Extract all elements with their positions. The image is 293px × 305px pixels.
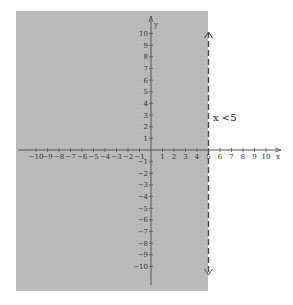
y-tick-label: −6: [138, 216, 149, 224]
y-tick-label: 5: [144, 88, 148, 96]
shaded-region: [16, 11, 208, 291]
x-tick-label: 7: [229, 153, 233, 161]
y-tick-label: 3: [144, 112, 148, 120]
y-tick-label: 7: [144, 65, 148, 73]
x-tick-label: −7: [65, 153, 75, 161]
y-tick-label: −4: [138, 193, 149, 201]
inequality-label: x <5: [213, 112, 237, 123]
x-tick-label: 4: [195, 153, 200, 161]
x-tick-label: −6: [77, 153, 88, 161]
x-tick-label: 1: [160, 153, 164, 161]
x-tick-label: −9: [42, 153, 52, 161]
y-tick-label: −10: [133, 263, 148, 271]
y-tick-label: 9: [144, 42, 148, 50]
x-tick-label: 2: [172, 153, 176, 161]
y-tick-label: −3: [138, 181, 148, 189]
y-axis-label: y: [153, 21, 158, 29]
y-tick-label: 8: [144, 53, 148, 61]
y-tick-label: −8: [138, 240, 148, 248]
x-tick-label: −4: [100, 153, 111, 161]
y-tick-label: −7: [138, 228, 148, 236]
x-axis-label: x: [276, 153, 280, 161]
y-tick-label: 10: [139, 30, 148, 38]
x-tick-label: −10: [29, 153, 44, 161]
y-tick-label: −5: [138, 205, 148, 213]
x-tick-label: −8: [54, 153, 64, 161]
x-tick-label: 6: [218, 153, 223, 161]
y-tick-label: 4: [144, 100, 149, 108]
x-tick-label: 3: [183, 153, 187, 161]
y-tick-label: 1: [144, 135, 148, 143]
x-tick-label: −3: [111, 153, 121, 161]
y-tick-label: −9: [138, 251, 148, 259]
x-tick-label: −5: [88, 153, 98, 161]
y-tick-label: 6: [144, 77, 149, 85]
y-tick-label: 2: [144, 123, 148, 131]
x-tick-label: −2: [123, 153, 133, 161]
x-tick-label: 9: [252, 153, 256, 161]
x-tick-label: 10: [262, 153, 271, 161]
y-tick-label: −2: [138, 170, 148, 178]
y-tick-label: −1: [138, 158, 148, 166]
x-tick-label: 8: [241, 153, 245, 161]
inequality-graph: −10−9−8−7−6−5−4−3−2−112345678910−10−9−8−…: [0, 0, 293, 305]
